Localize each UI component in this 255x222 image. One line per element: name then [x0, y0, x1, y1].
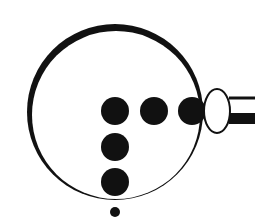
diagram-svg	[0, 0, 255, 222]
small-dot	[110, 207, 120, 217]
dot-right-2	[178, 97, 206, 125]
dot-center	[101, 97, 129, 125]
dot-down-1	[101, 133, 129, 161]
tube	[229, 98, 255, 124]
dot-right-1	[140, 97, 168, 125]
oval-shape	[204, 89, 230, 133]
diagram-canvas: Circle with dot arrangement and tube att…	[0, 0, 255, 222]
dot-down-2	[101, 168, 129, 196]
small-dot-shape	[110, 207, 120, 217]
oval-opening	[204, 89, 230, 133]
tube-bottom-bar	[229, 113, 255, 124]
